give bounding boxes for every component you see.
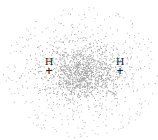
atom-left: H + (43, 57, 55, 76)
nucleus-charge-right: + (114, 67, 126, 76)
nucleus-charge-left: + (43, 67, 55, 76)
atom-right: H + (114, 57, 126, 76)
electron-cloud (0, 0, 158, 140)
